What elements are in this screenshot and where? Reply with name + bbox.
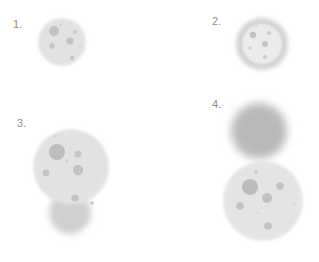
panel-3-granule-4	[71, 194, 78, 201]
panel-4-granule-1	[262, 193, 272, 203]
panel-4-granule-8	[293, 203, 295, 205]
panel-2-granule-3	[248, 46, 252, 50]
panel-2-outer-ring	[236, 18, 288, 70]
panel-1-granule-2	[49, 43, 54, 48]
panel-4-granule-4	[264, 222, 272, 230]
cell-image-layer	[0, 0, 319, 262]
panel-2-granule-4	[263, 55, 267, 59]
panel-2-granule-2	[267, 31, 271, 35]
panel-3	[33, 129, 109, 234]
panel-4-lower-granular-cell	[223, 161, 303, 241]
panel-label-4: 4.	[212, 99, 222, 110]
panel-3-granule-5	[90, 201, 94, 205]
panel-3-granule-7	[54, 135, 57, 138]
panel-2-granule-0	[250, 32, 256, 38]
panel-label-3: 3.	[17, 118, 27, 129]
panel-1-granule-3	[73, 30, 77, 34]
panel-1-granule-0	[49, 26, 59, 36]
panel-4-granule-7	[257, 212, 259, 214]
panel-2-inner-disc	[242, 24, 282, 64]
panel-3-lower-overlap-cell	[49, 192, 91, 234]
panel-4-granule-5	[254, 170, 258, 174]
panel-1-granule-6	[79, 46, 81, 48]
panel-2	[236, 18, 288, 70]
panel-3-granule-2	[74, 150, 81, 157]
panel-1	[38, 18, 86, 66]
panel-3-granule-1	[73, 165, 83, 175]
panel-2-granules	[248, 25, 271, 59]
panel-1-granule-5	[60, 24, 63, 27]
panel-4	[223, 103, 303, 241]
panel-1-granule-4	[70, 56, 75, 61]
panel-4-granule-6	[257, 189, 260, 192]
panel-3-granule-6	[66, 160, 69, 163]
panel-3-granule-8	[95, 179, 97, 181]
panel-4-upper-solid-cell	[231, 103, 287, 159]
panel-4-granule-2	[276, 182, 284, 190]
panel-label-1: 1.	[13, 19, 23, 30]
panel-label-2: 2.	[212, 16, 222, 27]
panel-1-granules	[49, 24, 81, 61]
panel-2-granule-1	[262, 41, 268, 47]
panel-3-granule-0	[49, 144, 65, 160]
panel-3-granules	[43, 135, 98, 206]
panel-4-granule-3	[236, 202, 244, 210]
panel-4-granules	[236, 170, 295, 230]
panel-3-granule-3	[43, 170, 50, 177]
panel-4-granule-0	[242, 179, 258, 195]
panel-2-granule-5	[256, 25, 258, 27]
panel-1-cell-body	[38, 18, 86, 66]
figure-canvas: 1. 2. 3. 4.	[0, 0, 319, 262]
panel-3-main-cell-body	[33, 129, 109, 205]
panel-1-granule-1	[66, 37, 73, 44]
